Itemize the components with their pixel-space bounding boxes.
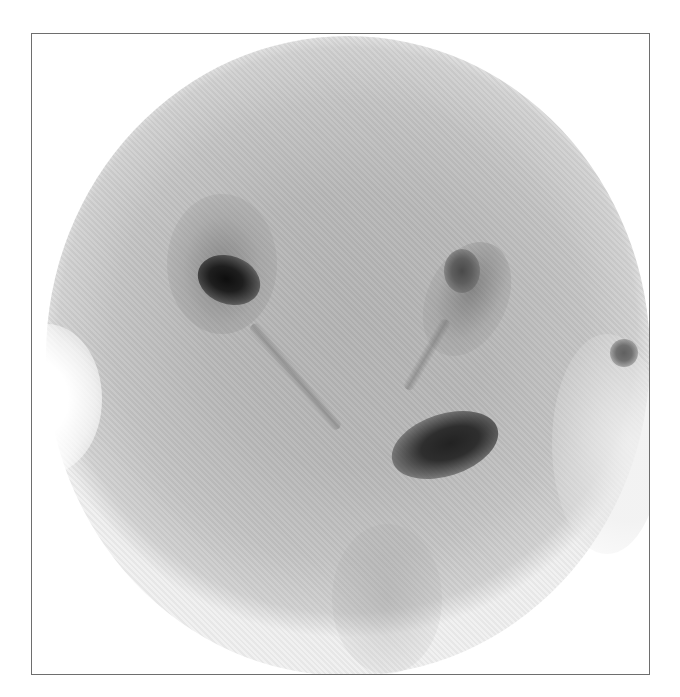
right-kidney-uptake xyxy=(444,249,480,293)
image-frame xyxy=(31,33,650,675)
marker-hotspot xyxy=(610,339,638,367)
lower-midline-shade xyxy=(332,524,442,674)
